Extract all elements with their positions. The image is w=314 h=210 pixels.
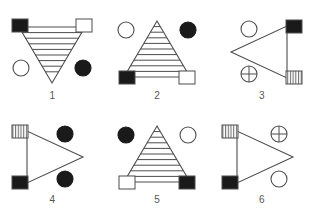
marker-bottom-left-square-black [12,176,28,189]
figure-panel-3: 3 [209,0,314,105]
marker-bottom-left-square-black [222,176,238,189]
figure-3-graphic [217,13,307,91]
marker-bottom-right-circle-black [75,60,91,76]
marker-top-right-circle-black [180,22,196,38]
marker-top-right-square-white [76,19,92,32]
triangle-down-striped [19,27,85,83]
figure-caption-6: 6 [209,194,314,205]
figure-4-graphic [7,118,97,196]
marker-top-left-square-striped [12,125,28,138]
figure-caption-2: 2 [105,90,210,101]
triangle-left-outline [231,26,287,78]
marker-bottom-left-square-black [119,71,135,84]
figure-panel-5: 5 [105,105,210,210]
marker-top-left-circle-white [118,22,134,38]
figure-panel-1: 1 [0,0,105,105]
marker-top-right-circle-crosshair [271,126,287,142]
figure-caption-3: 3 [209,90,314,101]
marker-top-left-circle-white [241,21,257,37]
triangle-right-outline [27,131,83,183]
marker-bottom-left-circle-crosshair [241,66,257,82]
marker-bottom-right-square-black [179,176,195,189]
marker-bottom-right-circle-black [57,171,73,187]
marker-top-left-square-black [12,19,28,32]
figure-5-graphic [112,118,202,196]
marker-bottom-right-square-striped [286,71,302,84]
figure-1-graphic [7,13,97,91]
marker-top-right-circle-white [180,127,196,143]
marker-bottom-right-square-white [179,71,195,84]
figure-2-graphic [112,13,202,91]
marker-top-left-square-striped [222,125,238,138]
marker-bottom-left-circle-white [13,60,29,76]
marker-bottom-right-circle-white [271,171,287,187]
figure-grid: 1 2 [0,0,314,209]
figure-caption-4: 4 [0,194,105,205]
figure-caption-1: 1 [0,90,105,101]
figure-panel-4: 4 [0,105,105,210]
marker-top-left-circle-black [118,127,134,143]
figure-6-graphic [217,118,307,196]
marker-top-right-square-black [286,20,302,33]
figure-panel-2: 2 [105,0,210,105]
figure-panel-6: 6 [209,105,314,210]
figure-caption-5: 5 [105,194,210,205]
marker-bottom-left-square-white [119,176,135,189]
marker-top-right-circle-black [57,126,73,142]
